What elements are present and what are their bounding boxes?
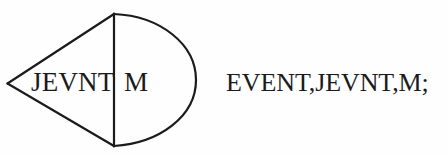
symbol-left-label: JEVNT [31,69,115,96]
caption-text: EVENT,JEVNT,M; [226,70,429,96]
diagram-page: JEVNT M EVENT,JEVNT,M; [0,0,448,155]
symbol-right-label: M [124,69,148,96]
